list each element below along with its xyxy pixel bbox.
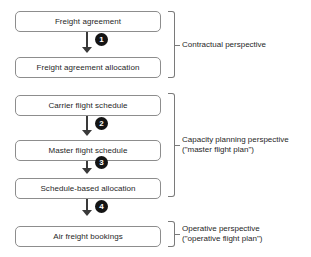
bracket-contractual bbox=[168, 11, 175, 78]
caption-capacity-planning-perspective: Capacity planning perspective ("master f… bbox=[182, 135, 289, 155]
caption-sub: ("operative flight plan") bbox=[182, 234, 262, 244]
caption-main: Capacity planning perspective bbox=[182, 135, 289, 144]
bracket-capacity bbox=[168, 93, 175, 197]
node-schedule-based-allocation[interactable]: Schedule-based allocation bbox=[15, 178, 161, 199]
step-badge-3: 3 bbox=[95, 156, 108, 169]
bracket-tick-operative bbox=[175, 234, 180, 235]
bracket-tick-capacity bbox=[175, 145, 180, 146]
arrow-head-2 bbox=[82, 130, 92, 136]
node-freight-agreement[interactable]: Freight agreement bbox=[15, 11, 161, 32]
node-air-freight-bookings[interactable]: Air freight bookings bbox=[15, 226, 161, 247]
arrow-head-1 bbox=[82, 47, 92, 53]
node-label: Schedule-based allocation bbox=[40, 184, 135, 193]
bracket-operative bbox=[168, 221, 175, 247]
bracket-tick-contractual bbox=[175, 45, 180, 46]
caption-sub: ("master flight plan") bbox=[182, 145, 289, 155]
caption-main: Contractual perspective bbox=[182, 40, 266, 49]
node-label: Air freight bookings bbox=[53, 232, 122, 241]
node-master-flight-schedule[interactable]: Master flight schedule bbox=[15, 140, 161, 161]
step-badge-4: 4 bbox=[95, 200, 108, 213]
node-freight-agreement-allocation[interactable]: Freight agreement allocation bbox=[15, 57, 161, 78]
node-carrier-flight-schedule[interactable]: Carrier flight schedule bbox=[15, 95, 161, 116]
arrow-head-4 bbox=[82, 210, 92, 216]
node-label: Master flight schedule bbox=[49, 146, 128, 155]
caption-contractual-perspective: Contractual perspective bbox=[182, 40, 266, 50]
caption-operative-perspective: Operative perspective ("operative flight… bbox=[182, 224, 262, 244]
step-badge-1: 1 bbox=[95, 33, 108, 46]
process-flow-diagram: Freight agreement Freight agreement allo… bbox=[0, 0, 311, 257]
node-label: Freight agreement allocation bbox=[37, 63, 140, 72]
node-label: Freight agreement bbox=[55, 17, 121, 26]
arrow-head-3 bbox=[82, 168, 92, 174]
caption-main: Operative perspective bbox=[182, 224, 260, 233]
node-label: Carrier flight schedule bbox=[49, 101, 128, 110]
step-badge-2: 2 bbox=[95, 117, 108, 130]
